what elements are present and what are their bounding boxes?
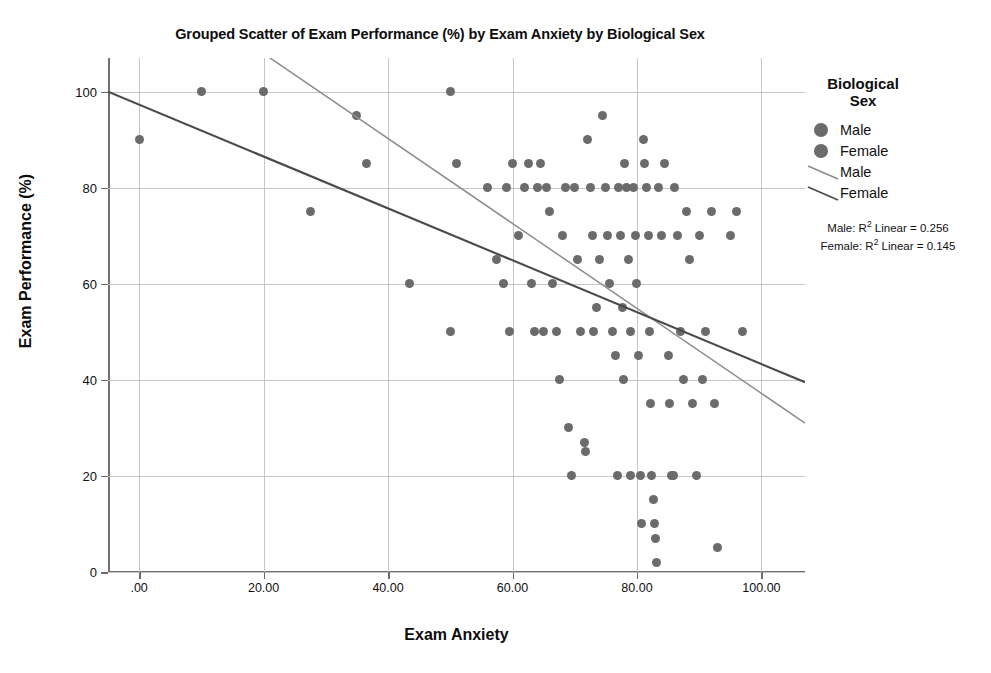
legend-label-marker-male: Male bbox=[840, 122, 871, 138]
x-tick-label: 100.00 bbox=[742, 581, 780, 595]
gridline-horizontal bbox=[108, 572, 805, 573]
gridline-vertical bbox=[388, 58, 389, 572]
x-tick-mark bbox=[761, 572, 763, 579]
data-point bbox=[701, 327, 710, 336]
x-tick-label: 80.00 bbox=[621, 581, 652, 595]
data-point bbox=[446, 87, 455, 96]
legend-row-line-female[interactable]: Female bbox=[806, 183, 989, 204]
data-point bbox=[555, 375, 564, 384]
data-point bbox=[452, 159, 461, 168]
data-point bbox=[583, 135, 592, 144]
data-point bbox=[520, 183, 529, 192]
data-point bbox=[707, 207, 716, 216]
legend: Biological Sex Male Female bbox=[793, 76, 989, 255]
y-axis-line bbox=[108, 58, 110, 572]
gridline-vertical bbox=[264, 58, 265, 572]
data-point bbox=[533, 183, 542, 192]
male-line-swatch bbox=[806, 162, 840, 182]
r2-stat-line: Male: R2 Linear = 0.256 bbox=[793, 218, 983, 237]
data-point bbox=[530, 327, 539, 336]
data-point bbox=[548, 279, 557, 288]
data-point bbox=[698, 375, 707, 384]
line-icon bbox=[806, 162, 840, 182]
data-point bbox=[564, 423, 573, 432]
data-point bbox=[642, 183, 651, 192]
x-tick-mark bbox=[513, 572, 515, 579]
legend-items: Male Female Male bbox=[806, 120, 989, 204]
legend-row-marker-male[interactable]: Male bbox=[806, 120, 989, 141]
data-point bbox=[682, 207, 691, 216]
data-point bbox=[695, 231, 704, 240]
data-point bbox=[650, 519, 659, 528]
y-tick-mark bbox=[101, 188, 108, 190]
regression-lines bbox=[108, 58, 805, 572]
y-tick-label: 100 bbox=[75, 84, 97, 99]
data-point bbox=[624, 255, 633, 264]
x-axis-title: Exam Anxiety bbox=[108, 626, 805, 644]
data-point bbox=[652, 558, 661, 567]
data-point bbox=[618, 303, 627, 312]
data-point bbox=[545, 207, 554, 216]
fit-line-svg bbox=[108, 58, 805, 572]
data-point bbox=[514, 231, 523, 240]
y-tick-label: 0 bbox=[90, 565, 97, 580]
data-point bbox=[626, 327, 635, 336]
data-point bbox=[598, 111, 607, 120]
y-tick-mark bbox=[101, 476, 108, 478]
line-icon bbox=[806, 183, 840, 203]
data-point bbox=[362, 159, 371, 168]
data-point bbox=[657, 231, 666, 240]
data-point bbox=[135, 135, 144, 144]
data-point bbox=[651, 534, 660, 543]
data-point bbox=[688, 399, 697, 408]
data-point bbox=[608, 327, 617, 336]
data-point bbox=[619, 375, 628, 384]
data-point bbox=[626, 471, 635, 480]
data-point bbox=[446, 327, 455, 336]
y-tick-mark bbox=[101, 92, 108, 94]
data-point bbox=[631, 231, 640, 240]
data-point bbox=[611, 351, 620, 360]
data-point bbox=[670, 183, 679, 192]
data-point bbox=[552, 327, 561, 336]
data-point bbox=[613, 471, 622, 480]
data-point bbox=[586, 183, 595, 192]
data-point bbox=[685, 255, 694, 264]
data-point bbox=[352, 111, 361, 120]
data-point bbox=[660, 159, 669, 168]
x-tick-label: 20.00 bbox=[248, 581, 279, 595]
data-point bbox=[673, 231, 682, 240]
female-line-swatch bbox=[806, 183, 840, 203]
legend-title: Biological Sex bbox=[793, 76, 933, 110]
data-point bbox=[636, 471, 645, 480]
legend-row-line-male[interactable]: Male bbox=[806, 162, 989, 183]
gridline-vertical bbox=[761, 58, 762, 572]
data-point bbox=[558, 231, 567, 240]
data-point bbox=[508, 159, 517, 168]
data-point bbox=[259, 87, 268, 96]
legend-row-marker-female[interactable]: Female bbox=[806, 141, 989, 162]
data-point bbox=[570, 183, 579, 192]
y-tick-label: 60 bbox=[83, 276, 97, 291]
data-point bbox=[592, 303, 601, 312]
fit-line-male bbox=[214, 58, 805, 423]
data-point bbox=[542, 183, 551, 192]
gridline-vertical bbox=[513, 58, 514, 572]
y-tick-label: 80 bbox=[83, 180, 97, 195]
legend-label-line-female: Female bbox=[840, 185, 888, 201]
data-point bbox=[654, 183, 663, 192]
data-point bbox=[649, 495, 658, 504]
data-point bbox=[561, 183, 570, 192]
data-point bbox=[405, 279, 414, 288]
data-point bbox=[647, 471, 656, 480]
x-tick-label: .00 bbox=[130, 581, 147, 595]
gridline-horizontal bbox=[108, 92, 805, 93]
data-point bbox=[616, 231, 625, 240]
y-tick-mark bbox=[101, 380, 108, 382]
data-point bbox=[634, 351, 643, 360]
data-point bbox=[664, 351, 673, 360]
data-point bbox=[692, 471, 701, 480]
data-point bbox=[676, 327, 685, 336]
data-point bbox=[306, 207, 315, 216]
data-point bbox=[669, 471, 678, 480]
